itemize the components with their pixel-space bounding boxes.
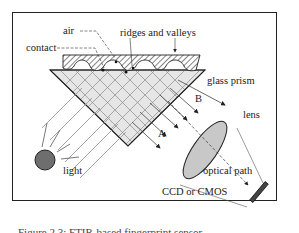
label-contact: contact bbox=[26, 42, 56, 53]
label-glass-prism: glass prism bbox=[207, 75, 255, 86]
air-point bbox=[132, 67, 134, 69]
contact-point bbox=[101, 68, 104, 71]
label-ridges-valleys: ridges and valleys bbox=[120, 27, 196, 38]
label-lens: lens bbox=[243, 109, 260, 120]
figure-caption: Figure 2.3: FTIR-based fingerprint senso… bbox=[18, 226, 203, 233]
ftir-diagram: air ridges and valleys contact glass pri… bbox=[0, 0, 299, 233]
label-air: air bbox=[63, 25, 75, 36]
label-path-a: A bbox=[158, 128, 166, 139]
air-point bbox=[115, 61, 118, 64]
contact-point bbox=[124, 70, 127, 73]
label-optical-path: optical path bbox=[203, 165, 253, 176]
label-light: light bbox=[63, 165, 82, 176]
label-path-b: B bbox=[195, 93, 202, 104]
label-sensor: CCD or CMOS bbox=[162, 186, 228, 197]
